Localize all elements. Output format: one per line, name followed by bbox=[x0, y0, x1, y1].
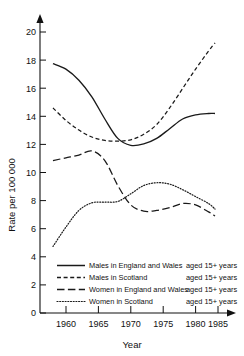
series-males-scotland bbox=[53, 43, 215, 141]
line-chart: 0 2 4 6 8 10 12 14 16 18 20 1960 1965 19… bbox=[0, 0, 244, 356]
y-tick-label: 16 bbox=[26, 84, 36, 94]
legend-note: aged 15+ years bbox=[186, 297, 237, 306]
legend: Males in England and Wales aged 15+ year… bbox=[57, 261, 237, 306]
y-tick-label: 12 bbox=[26, 140, 36, 150]
legend-item: Males in Scotland aged 15+ years bbox=[57, 273, 237, 282]
legend-label: Males in Scotland bbox=[89, 273, 147, 282]
x-tick-label: 1970 bbox=[121, 319, 141, 329]
series-group bbox=[53, 43, 215, 247]
x-tick-label: 1965 bbox=[88, 319, 108, 329]
y-tick-labels: 0 2 4 6 8 10 12 14 16 18 20 bbox=[26, 27, 36, 318]
y-tick-marks bbox=[40, 32, 46, 313]
y-axis-title: Rate per 100 000 bbox=[6, 158, 17, 231]
legend-label: Women in England and Wales bbox=[89, 285, 188, 294]
y-tick-label: 10 bbox=[26, 168, 36, 178]
y-tick-label: 14 bbox=[26, 112, 36, 122]
legend-item: Males in England and Wales aged 15+ year… bbox=[57, 261, 237, 270]
y-axis-arrowhead bbox=[36, 14, 43, 23]
y-tick-label: 18 bbox=[26, 56, 36, 66]
x-tick-labels: 1960 1965 1970 1975 1980 1985 bbox=[56, 319, 228, 329]
x-tick-label: 1985 bbox=[208, 319, 228, 329]
series-males-england-and-wales bbox=[53, 64, 215, 146]
legend-label: Women in Scotland bbox=[89, 297, 153, 306]
legend-label: Males in England and Wales bbox=[89, 261, 183, 270]
y-tick-label: 4 bbox=[31, 252, 36, 262]
y-tick-label: 20 bbox=[26, 27, 36, 37]
y-tick-label: 8 bbox=[31, 196, 36, 206]
y-tick-label: 2 bbox=[31, 280, 36, 290]
x-axis-arrowhead bbox=[227, 309, 236, 316]
axes-group bbox=[36, 14, 236, 317]
x-tick-label: 1980 bbox=[186, 319, 206, 329]
x-axis-title: Year bbox=[122, 339, 141, 350]
y-tick-label: 0 bbox=[31, 308, 36, 318]
legend-note: aged 15+ years bbox=[186, 261, 237, 270]
x-tick-label: 1960 bbox=[56, 319, 76, 329]
legend-note: aged 15+ years bbox=[186, 285, 237, 294]
y-tick-label: 6 bbox=[31, 224, 36, 234]
x-tick-label: 1975 bbox=[153, 319, 173, 329]
series-women-scotland bbox=[53, 183, 215, 247]
legend-item: Women in England and Wales aged 15+ year… bbox=[57, 285, 237, 294]
x-tick-marks bbox=[66, 306, 218, 313]
legend-note: aged 15+ years bbox=[186, 273, 237, 282]
series-women-england-and-wales bbox=[53, 151, 215, 216]
chart-svg: 0 2 4 6 8 10 12 14 16 18 20 1960 1965 19… bbox=[0, 0, 244, 356]
legend-item: Women in Scotland aged 15+ years bbox=[57, 297, 237, 306]
